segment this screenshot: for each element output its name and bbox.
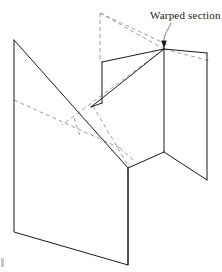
warped-section-figure: Warped section: [0, 0, 222, 272]
solid-visible-edges: [14, 40, 207, 265]
left-panel-diagonal: [14, 40, 128, 168]
page-edge-mark: [1, 258, 4, 267]
hidden-short-tick: [74, 118, 80, 136]
warped-section-callout: Warped section: [150, 9, 221, 49]
mid-panel-top-edge: [102, 49, 164, 62]
hidden-mid-crossing: [93, 106, 129, 167]
left-panel-outline: [14, 40, 128, 265]
callout-leader-line: [164, 23, 171, 39]
right-panel-top-edge: [164, 49, 207, 53]
right-panel-bottom-edge: [164, 152, 207, 180]
warped-section-label: Warped section: [150, 9, 221, 21]
hidden-long-diagonal-to-left: [62, 49, 164, 125]
mid-panel-lower-left-edge: [91, 103, 102, 107]
figure-canvas: Warped section: [0, 0, 222, 272]
